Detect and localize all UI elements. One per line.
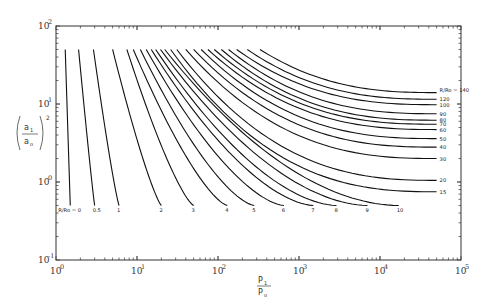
curve-label: 1 bbox=[117, 207, 120, 213]
svg-text:a: a bbox=[24, 123, 29, 132]
y-tick-exponent: -1 bbox=[48, 252, 54, 260]
x-tick-exponent: 3 bbox=[303, 263, 307, 271]
y-tick-exponent: 1 bbox=[48, 96, 52, 104]
curve-r-50 bbox=[201, 49, 436, 138]
x-tick-exponent: 2 bbox=[222, 263, 226, 271]
curve-label: 9 bbox=[365, 207, 368, 213]
curve-label: 0.5 bbox=[93, 207, 101, 213]
curve-label: 30 bbox=[440, 156, 447, 162]
plot-frame bbox=[56, 26, 461, 260]
curve-family bbox=[65, 49, 436, 205]
curve-label: 20 bbox=[440, 177, 447, 183]
curve-r-1 bbox=[93, 49, 119, 205]
x-axis-label: P 1 P o bbox=[257, 276, 271, 298]
y-tick-exponent: 2 bbox=[48, 18, 52, 26]
y-axis-label: a 1 a o 2 bbox=[17, 114, 50, 150]
curve-label: 6 bbox=[282, 207, 285, 213]
curve-label: 50 bbox=[440, 136, 447, 142]
curve-r-100 bbox=[237, 49, 437, 104]
curve-r-60 bbox=[208, 49, 437, 129]
curve-r-20 bbox=[177, 49, 437, 180]
curve-r-9 bbox=[160, 49, 367, 205]
curve-label: 3 bbox=[192, 207, 195, 213]
curve-label: 15 bbox=[440, 189, 447, 195]
curve-r-0 bbox=[65, 49, 70, 205]
svg-text:o: o bbox=[264, 292, 267, 298]
svg-text:o: o bbox=[30, 141, 33, 147]
curve-label: 120 bbox=[440, 96, 450, 102]
svg-text:P: P bbox=[258, 288, 263, 297]
curve-label: 4 bbox=[225, 207, 229, 213]
y-tick-exponent: 0 bbox=[48, 174, 52, 182]
curve-label: 8 bbox=[334, 207, 337, 213]
svg-text:1: 1 bbox=[264, 280, 267, 286]
svg-text:2: 2 bbox=[46, 114, 50, 121]
curve-label: 60 bbox=[440, 127, 447, 133]
svg-text:1: 1 bbox=[30, 127, 33, 133]
x-tick-exponent: 4 bbox=[384, 263, 388, 271]
plot-border bbox=[56, 26, 461, 260]
chart-svg: 10010110210310410510210110010-1 R/Ro = 0… bbox=[0, 0, 481, 306]
curve-label: 90 bbox=[440, 111, 447, 117]
curve-label: 5 bbox=[252, 207, 255, 213]
curve-label: 10 bbox=[397, 207, 404, 213]
x-tick-exponent: 5 bbox=[465, 263, 469, 271]
curve-label: R/Ro = 140 bbox=[440, 87, 469, 93]
x-tick-exponent: 1 bbox=[141, 263, 145, 271]
curve-label: 2 bbox=[159, 207, 162, 213]
curve-label: R/Ro = 0 bbox=[58, 207, 81, 213]
curve-r-0-5 bbox=[79, 49, 95, 205]
x-tick-exponent: 0 bbox=[60, 263, 64, 271]
curve-label: 7 bbox=[311, 207, 314, 213]
svg-text:a: a bbox=[24, 137, 29, 146]
curve-label: 40 bbox=[440, 144, 447, 150]
svg-text:P: P bbox=[258, 276, 263, 285]
curve-label: 100 bbox=[440, 102, 450, 108]
curve-r-4 bbox=[133, 49, 227, 205]
curve-label: 80 bbox=[440, 117, 447, 123]
curve-r-15 bbox=[171, 49, 437, 191]
